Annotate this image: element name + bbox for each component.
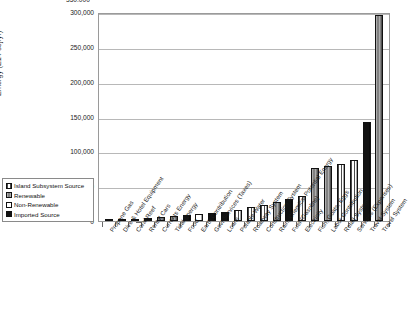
- x-axis-label-slot: Loans: [219, 228, 232, 314]
- bar-slot: [206, 14, 219, 221]
- y-axis-tick-label: 100,000: [48, 148, 94, 155]
- x-axis-label-slot: Currents Energy: [154, 228, 167, 314]
- legend-label: Island Subsystem Source: [14, 182, 84, 189]
- bar-slot: [193, 14, 206, 221]
- x-axis-labels: Propane GasDive & Hotel EquipmentCoral R…: [98, 228, 390, 314]
- x-axis-label-slot: Services (Expenses): [348, 228, 361, 314]
- bar-slot: [270, 14, 283, 221]
- x-axis-label-slot: Fish, Goats, Eggs: [309, 228, 322, 314]
- legend-label: Imported Source: [14, 211, 60, 218]
- x-axis-label-slot: Rental Cars: [141, 228, 154, 314]
- legend-item[interactable]: Imported Source: [6, 210, 91, 220]
- legend-swatch: [6, 211, 12, 217]
- bar-slot: [116, 14, 129, 221]
- legend-item[interactable]: Non-Renewable: [6, 200, 91, 210]
- legend-label: Non-Renewable: [14, 201, 58, 208]
- legend: Island Subsystem SourceRenewableNon-Rene…: [2, 178, 94, 222]
- bar-slot: [180, 14, 193, 221]
- x-axis-label-slot: Govt Services (Taxes): [206, 228, 219, 314]
- x-axis-label-slot: Construction System: [257, 228, 270, 314]
- x-axis-label-slot: Food: [180, 228, 193, 314]
- x-axis-label-slot: Coral Reef: [128, 228, 141, 314]
- x-axis-label-slot: Electricity: [296, 228, 309, 314]
- legend-swatch: [6, 192, 12, 198]
- chart-root: 350,000 Emergy (E14 sej/yr) 300,000250,0…: [0, 0, 414, 314]
- y-axis-tick-label: 150,000: [48, 114, 94, 121]
- x-axis-label-slot: Rain, Chemical Potential Energy: [270, 228, 283, 314]
- x-axis-label-slot: Retail System: [335, 228, 348, 314]
- legend-swatch: [6, 202, 12, 208]
- x-axis-label-slot: Roadway System: [244, 228, 257, 314]
- x-axis-label-slot: Potable Water: [232, 228, 245, 314]
- bar-slot: [129, 14, 142, 221]
- x-axis-label-slot: Dive & Hotel Equipment: [115, 228, 128, 314]
- legend-swatch: [6, 183, 12, 189]
- bar-slot: [167, 14, 180, 221]
- legend-item[interactable]: Renewable: [6, 191, 91, 201]
- y-axis-tick-label: 250,000: [48, 44, 94, 51]
- bar-slot: [103, 14, 116, 221]
- y-axis-tick-label: 200,000: [48, 79, 94, 86]
- legend-label: Renewable: [14, 192, 45, 199]
- bar-slot: [257, 14, 270, 221]
- legend-item[interactable]: Island Subsystem Source: [6, 181, 91, 191]
- y-axis-tick-label: 300,000: [48, 9, 94, 16]
- bar-slot: [322, 14, 335, 221]
- x-axis-label-slot: Travel System: [374, 228, 387, 314]
- x-axis-label-slot: Earth Contribution: [193, 228, 206, 314]
- y-axis-title: Emergy (E14 sej/yr): [0, 0, 3, 96]
- x-axis-label-slot: Travel System: [361, 228, 374, 314]
- x-axis-label-slot: Labor Contribution: [322, 228, 335, 314]
- x-axis-label-slot: Tidal Energy: [167, 228, 180, 314]
- x-axis-label-slot: Propane Gas: [102, 228, 115, 314]
- x-axis-label-slot: Fuel (Gasoline): [283, 228, 296, 314]
